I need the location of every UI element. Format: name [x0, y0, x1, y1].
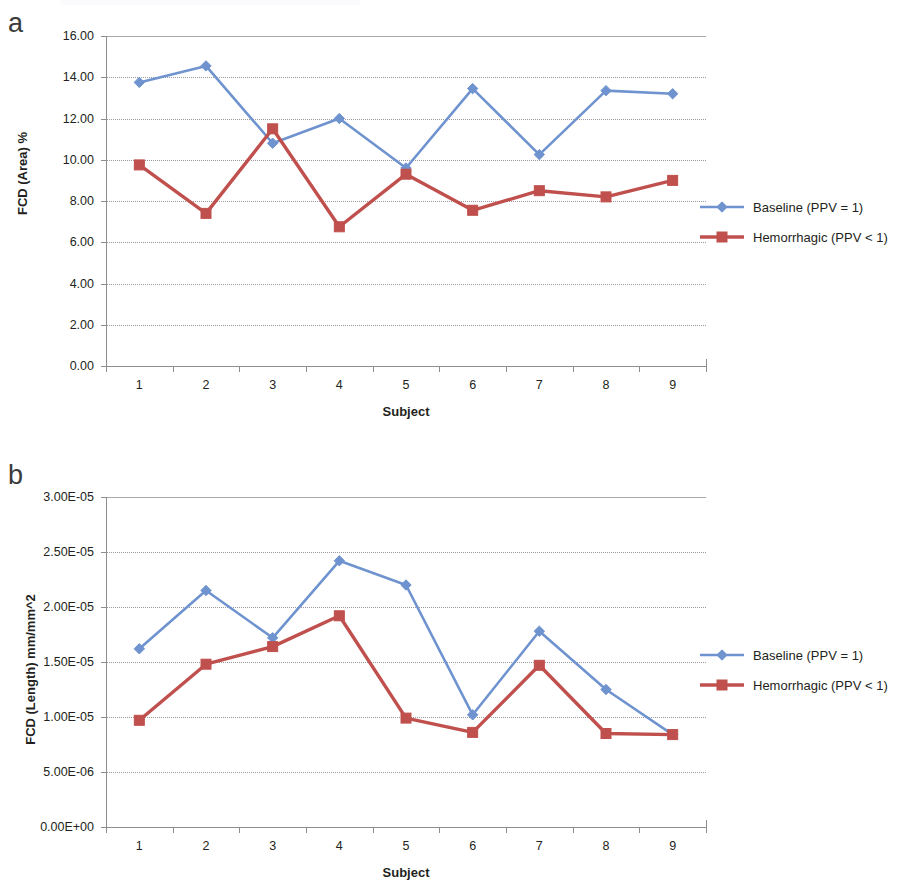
x-tick-label: 1 — [136, 839, 143, 853]
legend-item[interactable]: Baseline (PPV = 1) — [700, 640, 888, 670]
series-line-0 — [139, 66, 672, 168]
panel-letter-b: b — [8, 460, 23, 491]
x-axis-line — [106, 366, 706, 367]
chart-panel-a: a FCD (Area) % 0.002.004.006.008.0010.00… — [0, 0, 898, 440]
x-tick-mark — [173, 366, 174, 372]
x-axis-label-a: Subject — [383, 404, 430, 419]
x-tick-label: 7 — [536, 378, 543, 392]
y-tick-label: 8.00 — [0, 194, 94, 208]
x-tick-mark — [106, 366, 107, 372]
x-tick-mark — [106, 827, 107, 833]
legend-b: Baseline (PPV = 1) Hemorrhagic (PPV < 1) — [700, 640, 888, 700]
x-tick-label: 1 — [136, 378, 143, 392]
y-tick-label: 2.00E-05 — [0, 600, 94, 614]
x-tick-label: 6 — [469, 378, 476, 392]
x-axis-end-tick — [706, 820, 707, 827]
series-layer — [106, 36, 706, 366]
x-tick-label: 5 — [403, 378, 410, 392]
y-tick-label: 1.50E-05 — [0, 655, 94, 669]
y-tick-label: 3.00E-05 — [0, 490, 94, 504]
plot-area-a: 0.002.004.006.008.0010.0012.0014.0016.00… — [106, 36, 706, 366]
legend-label: Baseline (PPV = 1) — [753, 648, 863, 663]
x-tick-label: 8 — [603, 378, 610, 392]
x-tick-mark — [439, 366, 440, 372]
legend-marker-square — [700, 228, 744, 246]
x-tick-label: 7 — [536, 839, 543, 853]
x-tick-mark — [439, 827, 440, 833]
x-axis-label-b: Subject — [383, 865, 430, 880]
legend-swatch — [700, 228, 744, 246]
x-tick-mark — [639, 366, 640, 372]
legend-item[interactable]: Baseline (PPV = 1) — [700, 192, 888, 222]
x-tick-mark — [239, 366, 240, 372]
y-tick-label: 14.00 — [0, 70, 94, 84]
x-tick-mark — [639, 827, 640, 833]
legend-label: Hemorrhagic (PPV < 1) — [753, 678, 888, 693]
series-layer — [106, 497, 706, 827]
y-tick-label: 5.00E-06 — [0, 765, 94, 779]
chart-panel-b: b FCD (Length) mm/mm^2 0.00E+005.00E-061… — [0, 450, 898, 883]
legend-swatch — [700, 646, 744, 664]
x-tick-mark — [573, 827, 574, 833]
x-tick-label: 4 — [336, 378, 343, 392]
y-tick-label: 16.00 — [0, 29, 94, 43]
legend-label: Hemorrhagic (PPV < 1) — [753, 230, 888, 245]
y-tick-label: 10.00 — [0, 153, 94, 167]
x-tick-label: 9 — [669, 839, 676, 853]
legend-a: Baseline (PPV = 1) Hemorrhagic (PPV < 1) — [700, 192, 888, 252]
x-tick-mark — [706, 366, 707, 372]
x-tick-label: 8 — [603, 839, 610, 853]
x-tick-mark — [506, 827, 507, 833]
x-tick-label: 3 — [269, 839, 276, 853]
x-tick-label: 2 — [203, 839, 210, 853]
x-tick-label: 6 — [469, 839, 476, 853]
legend-item[interactable]: Hemorrhagic (PPV < 1) — [700, 670, 888, 700]
legend-marker-square — [700, 676, 744, 694]
y-tick-label: 6.00 — [0, 235, 94, 249]
legend-marker-diamond — [700, 646, 744, 664]
y-tick-label: 0.00E+00 — [0, 820, 94, 834]
x-tick-label: 9 — [669, 378, 676, 392]
x-tick-mark — [373, 827, 374, 833]
legend-marker-diamond — [700, 198, 744, 216]
legend-item[interactable]: Hemorrhagic (PPV < 1) — [700, 222, 888, 252]
y-tick-label: 2.50E-05 — [0, 545, 94, 559]
x-tick-mark — [573, 366, 574, 372]
x-tick-label: 5 — [403, 839, 410, 853]
legend-swatch — [700, 676, 744, 694]
x-tick-mark — [706, 827, 707, 833]
x-tick-label: 4 — [336, 839, 343, 853]
x-tick-label: 3 — [269, 378, 276, 392]
y-tick-label: 1.00E-05 — [0, 710, 94, 724]
legend-label: Baseline (PPV = 1) — [753, 200, 863, 215]
x-tick-mark — [373, 366, 374, 372]
legend-swatch — [700, 198, 744, 216]
x-tick-mark — [306, 366, 307, 372]
x-axis-end-tick — [706, 359, 707, 366]
x-axis-line — [106, 827, 706, 828]
x-tick-mark — [173, 827, 174, 833]
x-tick-mark — [306, 827, 307, 833]
y-tick-label: 4.00 — [0, 277, 94, 291]
x-tick-mark — [506, 366, 507, 372]
x-tick-mark — [239, 827, 240, 833]
y-tick-label: 2.00 — [0, 318, 94, 332]
y-tick-label: 0.00 — [0, 359, 94, 373]
y-tick-label: 12.00 — [0, 112, 94, 126]
plot-area-b: 0.00E+005.00E-061.00E-051.50E-052.00E-05… — [106, 497, 706, 827]
x-tick-label: 2 — [203, 378, 210, 392]
